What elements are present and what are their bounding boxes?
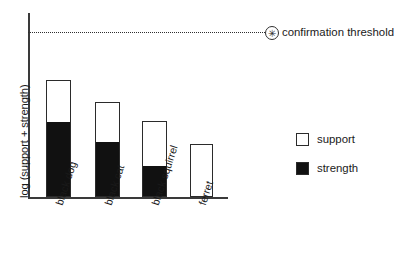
confirmation-threshold-line [28, 32, 265, 33]
legend-label-support: support [317, 133, 355, 145]
legend-swatch-support [296, 133, 309, 146]
y-axis-label: log (support + strength) [18, 12, 30, 198]
legend-label-strength: strength [317, 162, 358, 174]
chart-canvas: log (support + strength) ✳ confirmation … [0, 0, 406, 280]
asterisk-glyph: ✳ [268, 29, 276, 39]
asterisk-in-circle-icon: ✳ [265, 26, 279, 40]
chart-legend: supportstrength [296, 128, 358, 186]
legend-item-strength[interactable]: strength [296, 157, 358, 179]
legend-swatch-strength [296, 162, 309, 175]
confirmation-threshold-label: confirmation threshold [282, 26, 394, 38]
legend-item-support[interactable]: support [296, 128, 358, 150]
